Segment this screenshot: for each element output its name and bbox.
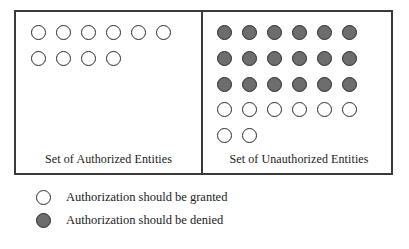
entity-denied-icon [267, 77, 282, 92]
entity-row [203, 51, 367, 69]
entity-granted-icon [56, 25, 71, 40]
unauthorized-dot-field [203, 12, 395, 144]
panel-authorized-caption: Set of Authorized Entities [16, 152, 201, 166]
entity-denied-icon [242, 51, 257, 66]
entity-granted-icon [267, 102, 282, 117]
entity-denied-icon [342, 77, 357, 92]
legend-label-denied: Authorization should be denied [66, 213, 223, 228]
entity-denied-icon [267, 51, 282, 66]
entity-denied-icon [317, 25, 332, 40]
panel-unauthorized-caption: Set of Unauthorized Entities [203, 152, 395, 166]
panel-unauthorized-entities: Set of Unauthorized Entities [203, 12, 395, 173]
entity-row [16, 51, 131, 69]
legend-item-granted: Authorization should be granted [36, 186, 376, 209]
legend: Authorization should be granted Authoriz… [36, 186, 376, 232]
entity-granted-icon [106, 51, 121, 66]
entity-denied-icon [292, 77, 307, 92]
entity-granted-icon [81, 25, 96, 40]
entity-denied-icon [317, 77, 332, 92]
entity-denied-icon [317, 51, 332, 66]
entity-granted-icon [31, 51, 46, 66]
entity-granted-icon [156, 25, 171, 40]
entity-granted-icon [56, 51, 71, 66]
entity-granted-icon [292, 102, 307, 117]
entity-granted-icon [31, 25, 46, 40]
entity-granted-icon [242, 128, 257, 143]
entity-denied-icon [217, 51, 232, 66]
legend-label-granted: Authorization should be granted [66, 190, 227, 205]
entity-row [203, 128, 267, 146]
entity-denied-icon [242, 25, 257, 40]
denied-circle-icon [36, 213, 51, 228]
entity-granted-icon [217, 102, 232, 117]
entity-denied-icon [267, 25, 282, 40]
entity-row [203, 102, 367, 120]
entity-granted-icon [81, 51, 96, 66]
diagram-frame: Set of Authorized Entities Set of Unauth… [14, 10, 393, 175]
entity-denied-icon [342, 25, 357, 40]
panel-authorized-entities: Set of Authorized Entities [16, 12, 203, 173]
entity-denied-icon [217, 25, 232, 40]
entity-granted-icon [342, 102, 357, 117]
authorized-dot-field [16, 12, 201, 144]
entity-denied-icon [342, 51, 357, 66]
entity-row [203, 25, 367, 43]
granted-circle-icon [36, 190, 51, 205]
entity-granted-icon [106, 25, 121, 40]
entity-denied-icon [242, 77, 257, 92]
legend-item-denied: Authorization should be denied [36, 209, 376, 232]
entity-denied-icon [292, 51, 307, 66]
entity-denied-icon [292, 25, 307, 40]
entity-granted-icon [242, 102, 257, 117]
entity-row [203, 77, 367, 95]
entity-granted-icon [317, 102, 332, 117]
entity-granted-icon [217, 128, 232, 143]
entity-denied-icon [217, 77, 232, 92]
entity-row [16, 25, 181, 43]
entity-granted-icon [131, 25, 146, 40]
